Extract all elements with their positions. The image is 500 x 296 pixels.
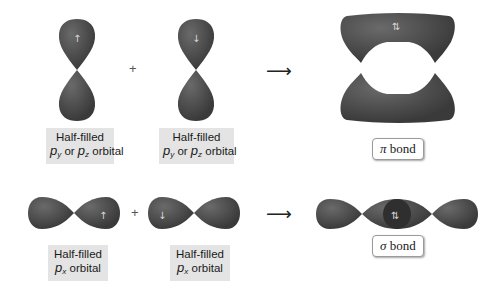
paired-spin-arrows: ⇅	[392, 21, 400, 32]
pi-bond-orbital: ⇅	[339, 12, 457, 124]
reaction-arrow: ⟶	[266, 203, 292, 225]
plus-operator: +	[131, 206, 139, 219]
sigma-bond-label: σ bond	[372, 235, 424, 257]
label-half-filled-py-pz-right: Half-filled py or pz orbital	[159, 128, 234, 164]
py-orbital-left: ↑	[56, 18, 98, 122]
spin-up-arrow: ↑	[73, 33, 81, 44]
px-orbital-left: ↑	[28, 196, 120, 230]
reaction-arrow: ⟶	[266, 60, 292, 82]
py-orbital-right: ↓	[175, 18, 217, 122]
label-half-filled-px-right: Half-filled px orbital	[170, 245, 230, 281]
spin-down-arrow: ↓	[158, 210, 166, 221]
spin-up-arrow: ↑	[99, 210, 107, 221]
spin-down-arrow: ↓	[192, 33, 200, 44]
paired-spin-arrows: ⇅	[391, 210, 399, 221]
label-half-filled-py-pz-left: Half-filled py or pz orbital	[46, 128, 114, 164]
px-orbital-right: ↓	[148, 196, 240, 230]
plus-operator: +	[129, 62, 137, 75]
pi-bond-label: π bond	[372, 138, 424, 160]
sigma-bond-orbital: ⇅	[316, 198, 478, 230]
label-half-filled-px-left: Half-filled px orbital	[48, 245, 108, 281]
